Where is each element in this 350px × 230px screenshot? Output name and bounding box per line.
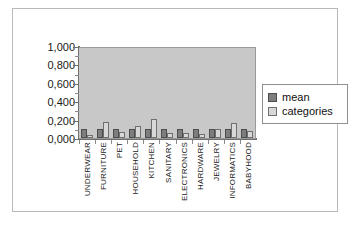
y-tick-mark [73, 84, 79, 85]
y-tick-label: 1,000 [29, 42, 75, 52]
y-minor-tick [75, 75, 79, 76]
y-tick-label: 0,400 [29, 97, 75, 107]
y-minor-tick [75, 111, 79, 112]
y-minor-tick [75, 130, 79, 131]
bar-categories[interactable] [199, 134, 205, 138]
x-tick-label: SANITARY [164, 142, 173, 183]
x-tick-label: KITCHEN [147, 142, 156, 179]
bar-categories[interactable] [87, 135, 93, 138]
bar-group [81, 48, 93, 138]
bar-categories[interactable] [119, 132, 125, 138]
chart-legend: mean categories [262, 84, 348, 124]
y-tick-label: 0,000 [29, 134, 75, 144]
bar-group [145, 48, 157, 138]
x-tick-mark [143, 140, 144, 144]
legend-item-categories[interactable]: categories [268, 106, 342, 117]
x-tick-label: PET [115, 142, 124, 158]
x-axis-labels: UNDERWEARFURNITUREPETHOUSEHOLDKITCHENSAN… [79, 142, 256, 214]
x-tick-label: UNDERWEAR [83, 142, 92, 196]
y-axis-labels: 1,0000,8000,6000,4000,2000,000 [23, 47, 75, 139]
chart-frame: 1,0000,8000,6000,4000,2000,000 UNDERWEAR… [12, 8, 338, 212]
x-tick-mark [176, 140, 177, 144]
bar-group [177, 48, 189, 138]
legend-swatch-categories [268, 107, 277, 116]
bar-categories[interactable] [103, 122, 109, 138]
x-tick-label: HARDWARE [196, 142, 205, 190]
y-tick-label: 0,600 [29, 79, 75, 89]
x-tick-mark [111, 140, 112, 144]
x-tick-mark [95, 140, 96, 144]
bar-categories[interactable] [135, 126, 141, 138]
legend-item-mean[interactable]: mean [268, 92, 342, 103]
bar-categories[interactable] [231, 123, 237, 138]
x-tick-mark [79, 140, 80, 144]
bar-group [209, 48, 221, 138]
x-tick-label: ELECTRONICS [180, 142, 189, 201]
x-tick-label: HOUSEHOLD [131, 142, 140, 194]
plot-area [79, 47, 256, 139]
bar-categories[interactable] [183, 133, 189, 138]
x-tick-label: FURNITURE [99, 142, 108, 190]
bar-groups [79, 48, 255, 138]
y-minor-tick [75, 56, 79, 57]
bar-group [113, 48, 125, 138]
y-tick-mark [73, 102, 79, 103]
y-tick-label: 0,800 [29, 60, 75, 70]
legend-label-categories: categories [282, 106, 333, 117]
bar-categories[interactable] [247, 131, 253, 138]
bar-categories[interactable] [151, 119, 157, 138]
bar-group [129, 48, 141, 138]
bar-group [225, 48, 237, 138]
y-minor-tick [75, 93, 79, 94]
x-tick-label: INFORMATICS [228, 142, 237, 199]
x-tick-mark [192, 140, 193, 144]
x-tick-mark [208, 140, 209, 144]
y-tick-mark [73, 121, 79, 122]
legend-label-mean: mean [282, 92, 310, 103]
y-tick-label: 0,200 [29, 116, 75, 126]
bar-group [193, 48, 205, 138]
bar-categories[interactable] [167, 133, 173, 138]
bar-group [241, 48, 253, 138]
y-tick-mark [73, 65, 79, 66]
bar-group [161, 48, 173, 138]
x-tick-mark [224, 140, 225, 144]
y-tick-mark [73, 47, 79, 48]
x-tick-label: JEWELRY [212, 142, 221, 181]
x-tick-mark [240, 140, 241, 144]
bar-group [97, 48, 109, 138]
x-tick-mark [127, 140, 128, 144]
x-tick-label: BABYHOOD [244, 142, 253, 189]
bar-categories[interactable] [215, 129, 221, 138]
legend-swatch-mean [268, 93, 277, 102]
x-tick-mark [159, 140, 160, 144]
